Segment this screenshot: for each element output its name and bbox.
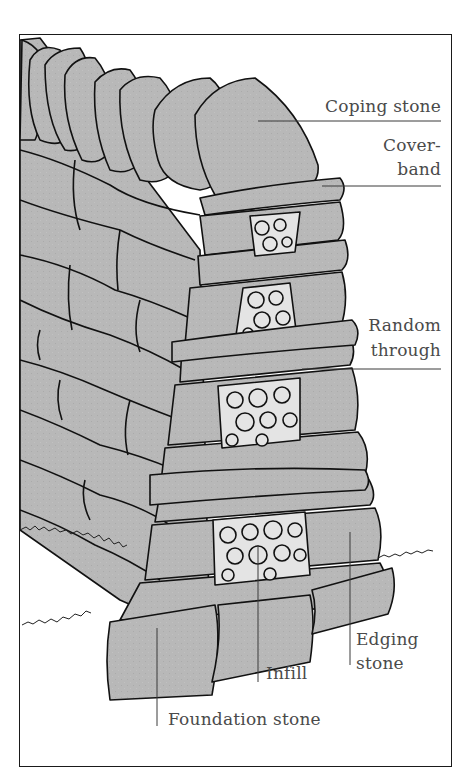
label-coping-stone-text: Coping stone <box>325 96 441 116</box>
label-random-through-line1: Random <box>330 313 441 338</box>
label-random-through-line2: through <box>330 338 441 363</box>
label-infill-text: Infill <box>266 663 307 683</box>
label-edging-stone-line2: stone <box>356 651 419 675</box>
label-cover-band-line2: band <box>330 157 441 181</box>
label-edging-stone: Edging stone <box>356 627 419 675</box>
label-foundation-stone-text: Foundation stone <box>168 709 321 729</box>
label-cover-band: Cover- band <box>330 133 441 181</box>
label-foundation-stone: Foundation stone <box>168 706 321 732</box>
label-coping-stone: Coping stone <box>300 93 441 119</box>
label-infill: Infill <box>266 660 307 686</box>
label-cover-band-line1: Cover- <box>330 133 441 157</box>
label-edging-stone-line1: Edging <box>356 627 419 651</box>
label-random-through: Random through <box>330 313 441 363</box>
